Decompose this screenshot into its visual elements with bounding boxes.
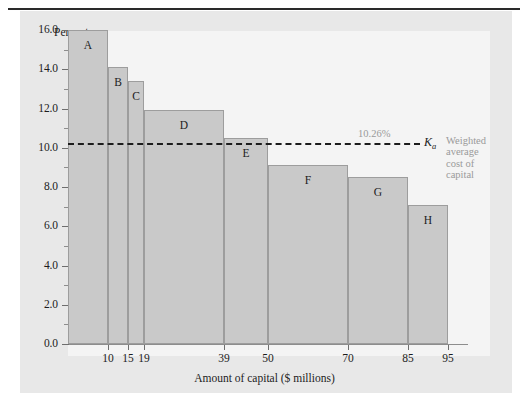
bar-label-c: C bbox=[132, 90, 140, 102]
wacc-caption-line-2: average bbox=[446, 146, 504, 158]
cost-of-capital-figure: Percent 0.02.04.06.08.010.012.014.016.0 … bbox=[0, 0, 529, 415]
x-tick bbox=[224, 345, 225, 350]
y-tick-label: 12.0 bbox=[14, 102, 58, 114]
y-tick-label: 2.0 bbox=[14, 298, 58, 310]
x-tick-label: 15 bbox=[122, 352, 134, 364]
bar-label-b: B bbox=[114, 76, 122, 88]
wacc-symbol-label: Ka bbox=[424, 135, 436, 151]
x-tick-label: 50 bbox=[262, 352, 274, 364]
top-divider-rule bbox=[8, 8, 520, 10]
wacc-caption: Weightedaveragecost ofcapital bbox=[446, 135, 504, 181]
wacc-symbol-subscript: a bbox=[432, 141, 436, 151]
bar-b bbox=[108, 67, 128, 344]
wacc-caption-line-3: cost of bbox=[446, 158, 504, 170]
bar-f bbox=[268, 165, 348, 344]
bar-c bbox=[128, 81, 144, 344]
x-tick-label: 85 bbox=[402, 352, 414, 364]
wacc-caption-line-4: capital bbox=[446, 169, 504, 181]
bar-label-a: A bbox=[84, 39, 92, 51]
x-tick bbox=[448, 345, 449, 350]
x-tick bbox=[408, 345, 409, 350]
y-tick-label: 6.0 bbox=[14, 219, 58, 231]
bar-label-g: G bbox=[374, 186, 382, 198]
bar-label-e: E bbox=[242, 147, 249, 159]
x-tick-label: 10 bbox=[102, 352, 114, 364]
bar-label-h: H bbox=[424, 214, 432, 226]
bar-a bbox=[68, 30, 108, 344]
bar-e bbox=[224, 138, 268, 344]
bar-d bbox=[144, 110, 224, 344]
x-axis-title: Amount of capital ($ millions) bbox=[0, 372, 529, 384]
x-tick bbox=[144, 345, 145, 350]
y-tick-label: 14.0 bbox=[14, 62, 58, 74]
wacc-symbol-base: K bbox=[424, 135, 432, 149]
bar-g bbox=[348, 177, 408, 344]
x-tick-label: 95 bbox=[442, 352, 454, 364]
y-tick-label: 0.0 bbox=[14, 337, 58, 349]
y-tick-label: 8.0 bbox=[14, 180, 58, 192]
wacc-caption-line-1: Weighted bbox=[446, 135, 504, 147]
x-tick bbox=[268, 345, 269, 350]
wacc-dashed-line bbox=[68, 143, 420, 145]
x-tick bbox=[108, 345, 109, 350]
x-tick bbox=[128, 345, 129, 350]
y-tick-label: 16.0 bbox=[14, 23, 58, 35]
y-tick-major bbox=[62, 344, 69, 345]
bar-label-d: D bbox=[180, 119, 188, 131]
wacc-value-label: 10.26% bbox=[358, 128, 390, 139]
x-tick-label: 39 bbox=[218, 352, 230, 364]
bar-label-f: F bbox=[305, 174, 311, 186]
x-tick bbox=[348, 345, 349, 350]
x-tick-label: 70 bbox=[342, 352, 354, 364]
y-tick-label: 10.0 bbox=[14, 141, 58, 153]
y-tick-label: 4.0 bbox=[14, 259, 58, 271]
x-tick-label: 19 bbox=[138, 352, 150, 364]
